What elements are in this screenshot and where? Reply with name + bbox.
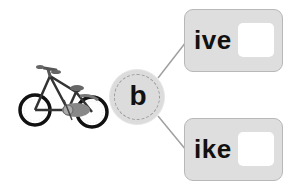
answer-checkbox[interactable] (238, 132, 274, 166)
letter-hub: b (109, 69, 165, 125)
bicycle-icon (18, 60, 110, 132)
hub-letter: b (110, 70, 166, 126)
option-card-ive: ive (184, 9, 283, 72)
option-card-ike: ike (184, 118, 283, 181)
option-suffix: ike (194, 134, 232, 165)
word-building-exercise: b ive ike (0, 0, 300, 194)
option-suffix: ive (194, 25, 232, 56)
answer-checkbox[interactable] (238, 23, 274, 57)
